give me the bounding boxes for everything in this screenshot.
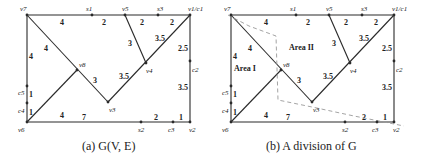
node-s3 xyxy=(361,14,364,17)
label-c3: c3 xyxy=(372,126,379,134)
label-v3: v3 xyxy=(109,106,116,114)
label-s2: s2 xyxy=(138,126,145,134)
weight-s2-c3: 2 xyxy=(154,113,158,122)
weight-v5-s3: 2 xyxy=(344,18,348,27)
node-v4 xyxy=(349,62,352,65)
edge-v6-v8 xyxy=(231,70,281,122)
weight-v7-s1: 4 xyxy=(264,18,268,27)
panel-b: v7 s1 v5 s3 v1/c1 v8 v4 c2 v3 c5 c4 v6 s… xyxy=(222,5,407,153)
weight-s1-v5: 2 xyxy=(306,18,310,27)
weight-v7-s1: 4 xyxy=(60,18,64,27)
label-v2: v2 xyxy=(393,126,400,134)
label-s3: s3 xyxy=(157,5,164,13)
weight-v5-v4: 3 xyxy=(128,39,132,48)
weight-v6-v8: 4 xyxy=(264,111,268,120)
area-i-label: Area I xyxy=(234,64,256,73)
node-v8 xyxy=(76,69,79,72)
label-v5: v5 xyxy=(326,5,333,13)
weight-v8-v3: 3 xyxy=(93,76,97,85)
edge-v6-v8 xyxy=(27,70,77,122)
weight-v7-v8: 4 xyxy=(44,44,48,53)
label-c3: c3 xyxy=(168,126,175,134)
weight-v1-v4: 3.5 xyxy=(155,34,165,43)
weight-c4-v6: 1 xyxy=(29,108,33,117)
weight-c5-c4: 1 xyxy=(29,90,33,99)
weight-s3-v1: 2 xyxy=(374,18,378,27)
label-c2: c2 xyxy=(396,66,403,74)
weight-c2-v2: 3.5 xyxy=(178,83,188,92)
weight-s3-v1: 2 xyxy=(170,18,174,27)
graph-figure: v7 s1 v5 s3 v1/c1 v8 v4 c2 v3 c5 c4 v6 s… xyxy=(0,0,423,165)
node-v5 xyxy=(124,14,127,17)
weight-c3-v2: 1 xyxy=(383,113,387,122)
node-v3 xyxy=(311,101,314,104)
weight-c3-v2: 1 xyxy=(179,113,183,122)
label-v8: v8 xyxy=(79,61,86,69)
label-s3: s3 xyxy=(361,5,368,13)
node-v6 xyxy=(230,121,233,124)
node-v1 xyxy=(393,14,396,17)
panel-a: v7 s1 v5 s3 v1/c1 v8 v4 c2 v3 c5 c4 v6 s… xyxy=(18,5,203,153)
weight-v1-c2: 2.5 xyxy=(178,44,188,53)
node-v3 xyxy=(107,101,110,104)
label-c5: c5 xyxy=(18,89,25,97)
node-c5 xyxy=(230,85,233,88)
caption-b: (b) A division of G xyxy=(266,139,357,153)
node-c3 xyxy=(172,121,175,124)
weight-v4-v3: 3.5 xyxy=(323,72,333,81)
node-c4 xyxy=(230,102,233,105)
weight-v5-s3: 2 xyxy=(140,18,144,27)
weight-v1-v4: 3.5 xyxy=(359,34,369,43)
label-s1: s1 xyxy=(86,5,92,13)
label-c4: c4 xyxy=(222,107,229,115)
node-c4 xyxy=(26,102,29,105)
node-v1 xyxy=(189,14,192,17)
weight-v8-v3: 3 xyxy=(297,76,301,85)
weight-c2-v2: 3.5 xyxy=(382,83,392,92)
node-c2 xyxy=(189,60,192,63)
weight-s2-c3: 2 xyxy=(362,113,366,122)
label-v7: v7 xyxy=(20,5,27,13)
node-v5 xyxy=(328,14,331,17)
label-v7: v7 xyxy=(224,5,231,13)
label-v6: v6 xyxy=(18,126,25,134)
weight-v1-c2: 2.5 xyxy=(382,44,392,53)
node-s2 xyxy=(344,121,347,124)
node-v6 xyxy=(26,121,29,124)
label-s1: s1 xyxy=(290,5,296,13)
weight-v5-v4: 3 xyxy=(332,39,336,48)
weight-v7-c5: 4 xyxy=(233,52,237,61)
node-v7 xyxy=(230,14,233,17)
edge-v7-v3 xyxy=(231,15,312,102)
weight-v7-v8: 4 xyxy=(248,44,252,53)
label-v3: v3 xyxy=(313,106,320,114)
label-v8: v8 xyxy=(283,61,290,69)
weight-s1-v5: 2 xyxy=(102,18,106,27)
node-v8 xyxy=(280,69,283,72)
label-v4: v4 xyxy=(146,67,153,75)
label-v2: v2 xyxy=(189,126,196,134)
weight-v4-v3: 3.5 xyxy=(119,72,129,81)
weight-v7-c5: 4 xyxy=(29,52,33,61)
weight-v6-s2: 7 xyxy=(82,113,86,122)
weight-v6-v8: 4 xyxy=(60,111,64,120)
weight-c4-v6: 1 xyxy=(233,108,237,117)
label-c5: c5 xyxy=(222,89,229,97)
edge-v7-v3 xyxy=(27,15,108,102)
node-v7 xyxy=(26,14,29,17)
label-v6: v6 xyxy=(222,126,229,134)
label-s2: s2 xyxy=(342,126,349,134)
caption-a: (a) G(V, E) xyxy=(82,139,135,153)
node-v2 xyxy=(189,121,192,124)
node-v2 xyxy=(393,121,396,124)
area-ii-label: Area II xyxy=(289,43,314,52)
node-s2 xyxy=(140,121,143,124)
weight-v6-s2: 7 xyxy=(286,113,290,122)
node-s1 xyxy=(91,14,94,17)
label-v1c1: v1/c1 xyxy=(188,5,203,13)
label-c2: c2 xyxy=(192,66,199,74)
weight-c5-c4: 1 xyxy=(233,90,237,99)
label-c4: c4 xyxy=(18,107,25,115)
node-v4 xyxy=(145,62,148,65)
node-s1 xyxy=(295,14,298,17)
